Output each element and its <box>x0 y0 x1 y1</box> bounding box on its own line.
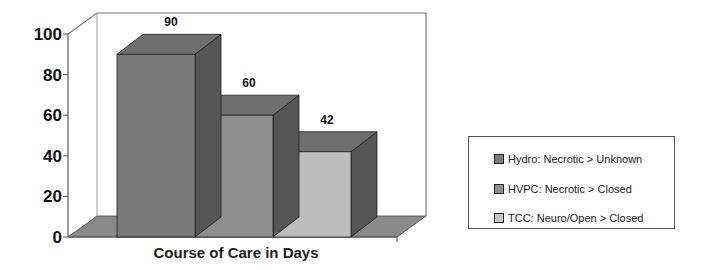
legend-item-tcc: TCC: Neuro/Open > Closed <box>494 212 643 224</box>
bars: 426090 <box>117 15 377 237</box>
x-axis-label: Course of Care in Days <box>153 244 318 261</box>
bar-side <box>195 34 221 237</box>
bar-front <box>117 54 195 237</box>
y-axis-ticks: 020406080100 <box>34 25 68 247</box>
legend-item-hydro: Hydro: Necrotic > Unknown <box>494 153 642 165</box>
bar-value-label: 60 <box>242 76 256 90</box>
y-tick-label: 20 <box>43 187 62 206</box>
bar-0: 90 <box>117 15 221 237</box>
y-tick-label: 80 <box>43 66 62 85</box>
bar-value-label: 42 <box>320 113 334 127</box>
legend: Hydro: Necrotic > Unknown HVPC: Necrotic… <box>468 136 675 229</box>
legend-item-hvpc: HVPC: Necrotic > Closed <box>494 183 632 195</box>
y-tick-label: 40 <box>43 147 62 166</box>
y-tick-label: 60 <box>43 106 62 125</box>
legend-swatch-icon <box>494 154 504 164</box>
legend-label: Hydro: Necrotic > Unknown <box>508 153 642 165</box>
bar-chart: 020406080100 426090 Course of Care in Da… <box>0 0 707 270</box>
bar-value-label: 90 <box>164 15 178 29</box>
legend-label: HVPC: Necrotic > Closed <box>508 183 632 195</box>
legend-swatch-icon <box>494 184 504 194</box>
y-tick-label: 100 <box>34 25 62 44</box>
y-tick-label: 0 <box>53 228 62 247</box>
bar-side <box>273 95 299 237</box>
legend-label: TCC: Neuro/Open > Closed <box>508 212 643 224</box>
legend-swatch-icon <box>494 213 504 223</box>
